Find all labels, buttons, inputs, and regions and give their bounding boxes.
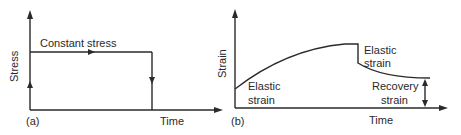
panel-b-strain-vs-time: Elastic strain Elastic strain Recovery s… [216, 9, 448, 127]
constant-stress-label: Constant stress [40, 37, 117, 49]
arrow-right-icon [88, 49, 95, 55]
elastic-strain-unloading-label-line1: Elastic [364, 44, 397, 56]
creep-recovery-diagram: Constant stress Stress (a) Time Elastic … [0, 0, 461, 135]
panel-b-x-axis-label: Time [369, 114, 393, 126]
panel-a-y-axis-label: Stress [8, 50, 20, 82]
arrow-up-icon [232, 9, 238, 18]
arrow-down-icon [149, 77, 155, 84]
recovery-strain-label-line1: Recovery [372, 80, 419, 92]
elastic-strain-loading-label-line1: Elastic [248, 80, 281, 92]
elastic-strain-loading-label-line2: strain [248, 94, 275, 106]
panel-b-tag: (b) [231, 115, 244, 127]
arrow-up-icon [422, 79, 428, 86]
arrow-right-icon [439, 105, 448, 111]
panel-a-x-axis-label: Time [160, 115, 184, 127]
recovery-strain-label-line2: strain [381, 94, 408, 106]
panel-a-tag: (a) [26, 115, 39, 127]
arrow-right-icon [214, 107, 223, 113]
elastic-strain-unloading-label-line2: strain [364, 57, 391, 69]
arrow-up-icon [27, 81, 33, 88]
panel-b-y-axis-label: Strain [216, 49, 228, 78]
arrow-up-icon [27, 10, 33, 19]
panel-a-stress-vs-time: Constant stress Stress (a) Time [8, 10, 223, 127]
arrow-down-icon [422, 100, 428, 107]
